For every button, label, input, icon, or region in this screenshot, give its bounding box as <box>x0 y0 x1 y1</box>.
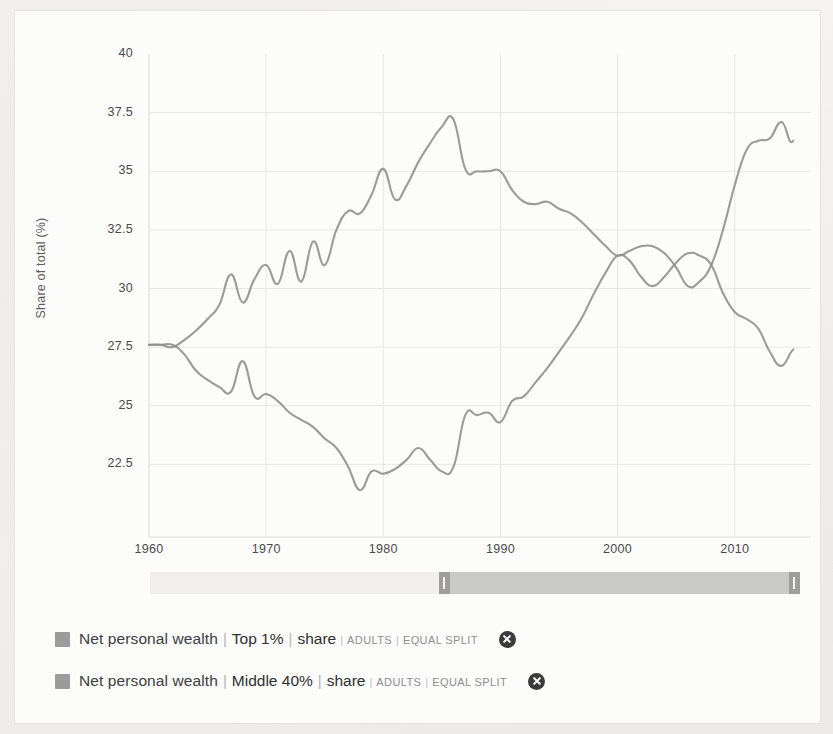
x-axis-tick-label: 1970 <box>252 542 281 556</box>
slider-handle-right[interactable] <box>789 572 800 594</box>
x-axis-tick-label: 2000 <box>603 542 632 556</box>
legend-population: ADULTS <box>376 676 421 688</box>
chart-card: Share of total (%) 4037.53532.53027.5252… <box>14 10 821 724</box>
time-range-slider[interactable] <box>150 572 800 594</box>
legend-separator: | <box>396 634 399 646</box>
series-line-1 <box>149 116 793 347</box>
slider-handle-left[interactable] <box>439 572 450 594</box>
x-axis-tick-label: 2010 <box>720 542 749 556</box>
legend-separator: | <box>223 630 227 647</box>
x-axis-ticks: 196019701980199020002010 <box>15 542 820 566</box>
legend-percentile: Top 1% <box>232 630 284 648</box>
chart-area: Share of total (%) 4037.53532.53027.5252… <box>15 11 820 571</box>
legend-separator: | <box>223 672 227 689</box>
legend-separator: | <box>425 676 428 688</box>
legend-population: ADULTS <box>347 634 392 646</box>
remove-series-close-icon[interactable] <box>528 673 545 690</box>
legend-indicator: Net personal wealth <box>79 630 218 648</box>
legend-measure: share <box>327 672 366 690</box>
legend-separator: | <box>289 630 293 647</box>
slider-thumb[interactable] <box>439 572 800 594</box>
remove-series-close-icon[interactable] <box>499 631 516 648</box>
legend-split: EQUAL SPLIT <box>432 676 507 688</box>
line-chart-plot <box>15 11 820 571</box>
legend-measure: share <box>297 630 336 648</box>
chart-legend: Net personal wealth|Top 1%|share|ADULTS|… <box>55 618 795 702</box>
legend-indicator: Net personal wealth <box>79 672 218 690</box>
legend-separator: | <box>318 672 322 689</box>
x-axis-tick-label: 1990 <box>486 542 515 556</box>
legend-percentile: Middle 40% <box>232 672 313 690</box>
x-axis-tick-label: 1960 <box>134 542 163 556</box>
legend-row[interactable]: Net personal wealth|Middle 40%|share|ADU… <box>55 660 795 702</box>
legend-label: Net personal wealth|Top 1%|share|ADULTS|… <box>79 630 478 648</box>
legend-separator: | <box>340 634 343 646</box>
legend-separator: | <box>370 676 373 688</box>
legend-color-swatch <box>55 632 70 647</box>
legend-color-swatch <box>55 674 70 689</box>
x-axis-tick-label: 1980 <box>369 542 398 556</box>
legend-split: EQUAL SPLIT <box>403 634 478 646</box>
legend-row[interactable]: Net personal wealth|Top 1%|share|ADULTS|… <box>55 618 795 660</box>
legend-label: Net personal wealth|Middle 40%|share|ADU… <box>79 672 507 690</box>
